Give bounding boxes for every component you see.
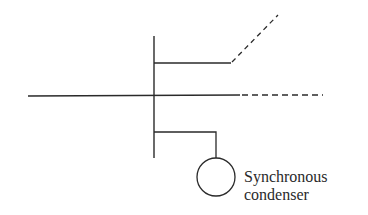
- single-line-diagram: Synchronous condenser: [0, 0, 368, 215]
- condenser-label-line1: Synchronous: [244, 168, 328, 186]
- synchronous-condenser-symbol: [197, 158, 235, 196]
- diagram-canvas: Synchronous condenser: [0, 0, 368, 215]
- condenser-branch-line: [154, 132, 216, 158]
- condenser-label-line2: condenser: [244, 186, 310, 203]
- upper-feeder-dashed-extension: [232, 15, 278, 62]
- main-line: [28, 95, 240, 96]
